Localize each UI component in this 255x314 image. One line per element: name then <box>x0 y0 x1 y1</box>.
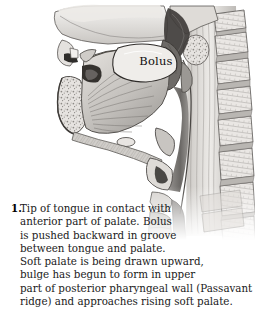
caption-list: 1. Tip of tongue in contact with anterio… <box>0 202 255 308</box>
caption-line-5: Soft palate is being drawn upward, <box>20 255 255 268</box>
caption-item: 1. Tip of tongue in contact with anterio… <box>0 202 255 308</box>
caption-line-1: Tip of tongue in contact with <box>20 202 255 215</box>
bolus-shape <box>113 44 177 82</box>
caption-line-8: ridge) and approaches rising soft palate… <box>20 295 255 308</box>
incisor-tooth <box>70 48 78 58</box>
caption-line-4: between tongue and palate. <box>20 242 255 255</box>
caption-line-6: bulge has begun to form in upper <box>20 268 255 281</box>
caption-line-7: part of posterior pharyngeal wall (Passa… <box>20 282 255 295</box>
caption: 1. Tip of tongue in contact with anterio… <box>0 202 255 308</box>
epiglottis <box>155 128 174 156</box>
caption-number: 1. <box>11 202 22 215</box>
caption-line-3: is pushed backward in groove <box>20 229 255 242</box>
caption-line-2: anterior part of palate. Bolus <box>20 215 255 228</box>
